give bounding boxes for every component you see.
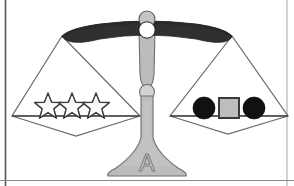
right-pan-items	[193, 97, 265, 119]
balance-scale-illustration: A	[0, 0, 294, 186]
square-1	[219, 98, 239, 118]
base-letter-A: A	[139, 150, 155, 176]
circle-2	[243, 97, 265, 119]
circle-1	[193, 97, 215, 119]
beam-pivot-hole	[139, 22, 155, 38]
scale-diagram-canvas: A Balance scale weighing puzzle three st…	[0, 0, 294, 186]
